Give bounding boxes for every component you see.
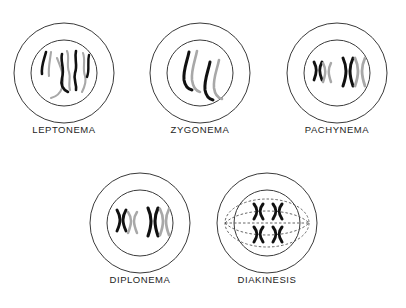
chromosome-thread-dark-2 [61,54,68,92]
diakinesis-cell-diagram [207,168,327,278]
synapsed-pair-2-light [214,60,222,99]
stage-label-diakinesis: DIAKINESIS [207,274,327,285]
bivalent-2-light-arm-a [160,209,163,235]
bivalent-1-light-arm-b [329,63,331,82]
chromosome-thread-dark-1 [42,52,46,74]
bivalent-1-dark-arm-a [314,62,316,80]
cell-membrane-outline [150,23,250,123]
bivalent-1-dark-arm-a [117,210,120,231]
spindle-fiber-lower [225,223,309,235]
spindle-fiber-upper [225,211,309,223]
stage-label-leptonema: LEPTONEMA [4,124,124,135]
synapsed-pair-1-dark [184,52,192,90]
bivalent-2-dark-arm-a [148,208,151,236]
synapsed-pair-1-light [192,51,200,92]
nucleus-outline [304,40,370,106]
chromosome-thread-light-3 [67,51,70,90]
tetrad-chromosome-1-arm-b [260,204,263,219]
synapsed-pair-2-dark [205,62,213,100]
meiosis-prophase-figure: LEPTONEMA ZYGONEMA [0,0,406,308]
spindle-apparatus [225,199,309,247]
tetrad-chromosome-4-arm-b [279,227,282,242]
diplonema-cell-diagram [80,168,200,278]
chromosome-thread-light-1 [49,52,51,76]
bivalent-1-dark-arm-b [123,210,126,231]
stage-diplonema: DIPLONEMA [80,168,200,298]
stage-diakinesis: DIAKINESIS [207,168,327,298]
chromosome-group [184,51,222,100]
chromosome-group [314,58,365,86]
bivalent-1-light-arm-b [134,212,137,233]
nucleus-outline [167,40,233,106]
chromosome-thread-dark-3 [74,51,76,90]
leptonema-cell-diagram [4,18,124,128]
chromosome-group [42,51,89,98]
stage-label-diplonema: DIPLONEMA [80,274,200,285]
bivalent-2-dark-arm-a [343,58,346,86]
stage-leptonema: LEPTONEMA [4,18,124,148]
stage-pachynema: PACHYNEMA [277,18,397,148]
bivalent-1-dark-arm-b [320,62,322,80]
chromosome-group [117,208,169,236]
tetrad-chromosome-3-arm-b [260,227,263,242]
bivalent-2-light-arm-a [355,58,358,86]
bivalent-2-light-arm-b [166,209,169,235]
chromosome-thread-dark-4 [87,55,89,77]
tetrad-chromosome-2-arm-b [279,204,282,219]
bivalent-2-dark-arm-b [350,58,353,86]
bivalent-2-dark-arm-b [155,208,158,236]
stage-label-pachynema: PACHYNEMA [277,124,397,135]
bivalent-1-light-arm-a [128,212,131,233]
cell-membrane-outline [90,173,190,273]
stage-zygonema: ZYGONEMA [140,18,260,148]
bivalent-2-light-arm-b [362,58,365,86]
chromosome-thread-light-4 [82,53,86,92]
cell-membrane-outline [287,23,387,123]
stage-label-zygonema: ZYGONEMA [140,124,260,135]
bivalent-1-light-arm-a [323,63,325,82]
zygonema-cell-diagram [140,18,260,128]
pachynema-cell-diagram [277,18,397,128]
